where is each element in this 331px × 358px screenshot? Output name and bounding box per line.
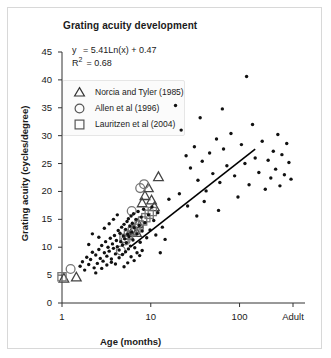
data-point-dot bbox=[142, 208, 145, 211]
data-point-dot bbox=[122, 265, 125, 268]
data-point-dot bbox=[156, 211, 159, 214]
data-point-dot bbox=[116, 213, 119, 216]
data-point-dot bbox=[280, 153, 283, 156]
data-point-dot bbox=[119, 240, 122, 243]
data-point-dot bbox=[92, 266, 95, 269]
data-point-dot bbox=[105, 263, 108, 266]
data-point-dot bbox=[107, 222, 110, 225]
data-point-dot bbox=[215, 137, 218, 140]
data-point-dot bbox=[101, 259, 104, 262]
data-point-dot bbox=[264, 188, 267, 191]
data-point-dot bbox=[269, 176, 272, 179]
data-point-dot bbox=[208, 151, 211, 154]
data-point-dot bbox=[121, 253, 124, 256]
data-point-dot bbox=[193, 145, 196, 148]
data-point-dot bbox=[184, 154, 187, 157]
data-point-dot bbox=[132, 212, 135, 215]
data-point-dot bbox=[150, 205, 153, 208]
data-point-dot bbox=[154, 233, 157, 236]
data-point-dot bbox=[161, 225, 164, 228]
data-point-dot bbox=[129, 255, 132, 258]
data-point-dot bbox=[112, 247, 115, 250]
data-point-dot bbox=[114, 262, 117, 265]
y-tick-label: 25 bbox=[30, 158, 52, 169]
data-point-dot bbox=[253, 156, 256, 159]
data-point-dot bbox=[91, 232, 94, 235]
y-tick-label: 20 bbox=[30, 185, 52, 196]
data-point-dot bbox=[236, 195, 239, 198]
data-point-dot bbox=[120, 225, 123, 228]
data-point-dot bbox=[124, 228, 127, 231]
data-point-dot bbox=[189, 166, 192, 169]
data-point-dot bbox=[289, 177, 292, 180]
data-point-dot bbox=[132, 226, 135, 229]
data-point-dot bbox=[229, 132, 232, 135]
data-point-dot bbox=[274, 167, 277, 170]
data-point-dot bbox=[204, 189, 207, 192]
x-tick-label: 1 bbox=[42, 311, 82, 322]
data-point-dot bbox=[89, 258, 92, 261]
data-point-dot bbox=[126, 261, 129, 264]
data-point-dot bbox=[174, 104, 177, 107]
data-point-dot bbox=[136, 210, 139, 213]
data-point-dot bbox=[211, 172, 214, 175]
data-point-dot bbox=[115, 239, 118, 242]
data-point-dot bbox=[178, 192, 181, 195]
data-point-dot bbox=[131, 222, 134, 225]
data-point-dot bbox=[91, 251, 94, 254]
data-point-dot bbox=[287, 161, 290, 164]
data-point-dot bbox=[218, 181, 221, 184]
y-tick-label: 40 bbox=[30, 74, 52, 85]
data-point-dot bbox=[152, 219, 155, 222]
data-point-dot bbox=[85, 256, 88, 259]
y-tick-label: 10 bbox=[30, 241, 52, 252]
y-tick-label: 15 bbox=[30, 213, 52, 224]
data-point-dot bbox=[100, 244, 103, 247]
data-point-dot bbox=[87, 263, 90, 266]
data-point-dot bbox=[138, 254, 141, 257]
data-point-dot bbox=[276, 133, 279, 136]
data-point-dot bbox=[127, 247, 130, 250]
data-point-dot bbox=[186, 204, 189, 207]
y-tick-label: 35 bbox=[30, 102, 52, 113]
data-point-dot bbox=[78, 264, 81, 267]
data-point-dot bbox=[111, 242, 114, 245]
data-point-dot bbox=[163, 238, 166, 241]
data-point-dot bbox=[117, 256, 120, 259]
data-point-dot bbox=[247, 183, 250, 186]
data-point-dot bbox=[225, 164, 228, 167]
data-point-dot bbox=[87, 243, 90, 246]
data-point-dot bbox=[112, 218, 115, 221]
x-tick-label: 10 bbox=[131, 311, 171, 322]
data-point-dot bbox=[106, 246, 109, 249]
data-point-dot bbox=[97, 248, 100, 251]
data-point-dot bbox=[105, 254, 108, 257]
data-point-triangle bbox=[72, 272, 82, 281]
data-point-dot bbox=[83, 268, 86, 271]
data-point-dot bbox=[103, 251, 106, 254]
data-point-dot bbox=[128, 224, 131, 227]
data-point-dot bbox=[113, 234, 116, 237]
data-point-dot bbox=[145, 236, 148, 239]
data-point-dot bbox=[195, 214, 198, 217]
data-point-dot bbox=[245, 75, 248, 78]
data-point-dot bbox=[125, 241, 128, 244]
y-tick-label: 0 bbox=[30, 297, 52, 308]
data-point-dot bbox=[109, 237, 112, 240]
data-point-dot bbox=[233, 174, 236, 177]
data-point-dot bbox=[143, 221, 146, 224]
data-point-dot bbox=[137, 224, 140, 227]
data-point-dot bbox=[134, 218, 137, 221]
data-point-dot bbox=[261, 140, 264, 143]
data-point-dot bbox=[159, 251, 162, 254]
data-point-dot bbox=[217, 209, 220, 212]
data-point-dot bbox=[117, 248, 120, 251]
data-point-dot bbox=[96, 262, 99, 265]
data-point-dot bbox=[103, 227, 106, 230]
data-point-dot bbox=[221, 107, 224, 110]
data-point-dot bbox=[135, 251, 138, 254]
data-point-dot bbox=[243, 162, 246, 165]
data-point-dot bbox=[167, 198, 170, 201]
data-point-dot bbox=[272, 150, 275, 153]
y-tick-label: 45 bbox=[30, 46, 52, 57]
